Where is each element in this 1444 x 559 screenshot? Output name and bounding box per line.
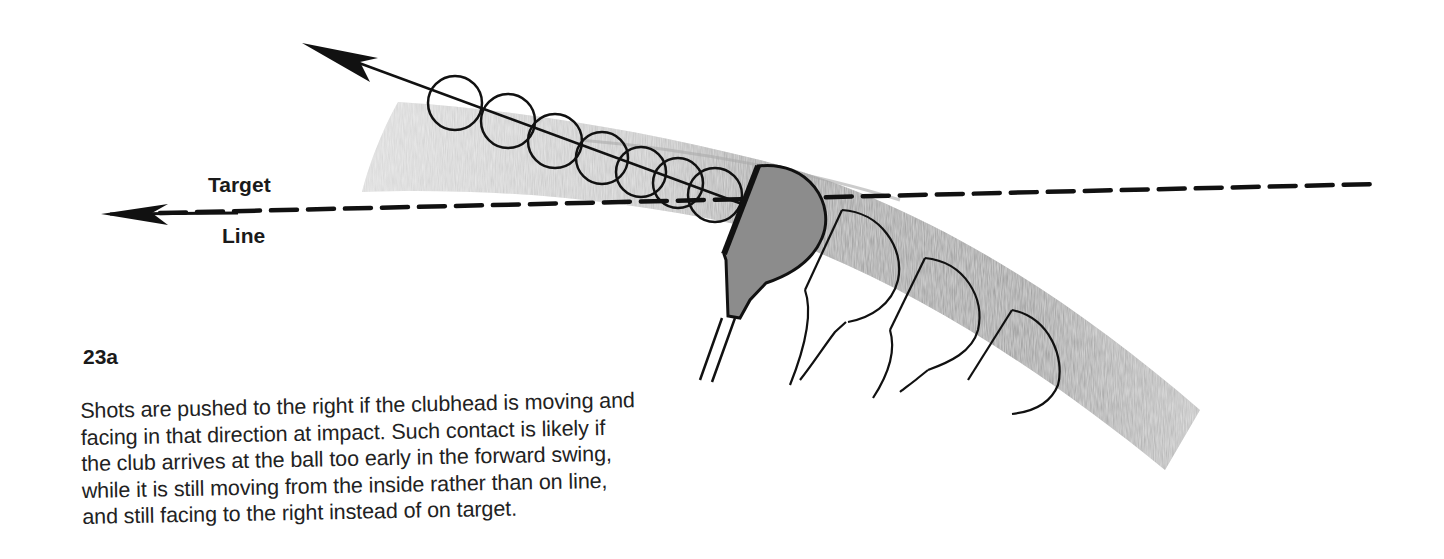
line-label: Line bbox=[222, 224, 265, 248]
figure-number: 23a bbox=[83, 345, 118, 369]
target-label: Target bbox=[208, 173, 271, 197]
figure-caption: Shots are pushed to the right if the clu… bbox=[80, 384, 802, 530]
path-arrowhead-icon bbox=[302, 43, 378, 82]
